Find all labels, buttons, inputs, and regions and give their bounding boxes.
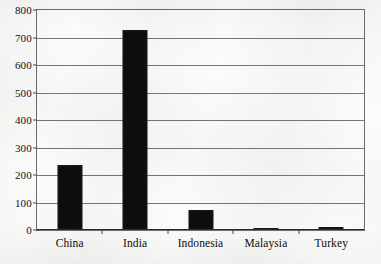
gridline <box>37 203 364 204</box>
x-axis-tick-mark <box>102 230 103 234</box>
y-axis-tick-mark <box>33 175 37 176</box>
x-axis-label-malaysia: Malaysia <box>244 237 287 249</box>
gridline <box>37 93 364 94</box>
y-axis-tick-mark <box>33 37 37 38</box>
bar-china <box>57 165 82 230</box>
y-axis-tick-mark <box>33 202 37 203</box>
y-axis-tick-mark <box>33 120 37 121</box>
y-axis-tick-mark <box>33 65 37 66</box>
x-axis-label-india: India <box>123 237 147 249</box>
bar-indonesia <box>188 210 213 230</box>
gridline <box>37 148 364 149</box>
y-axis-tick-label: 400 <box>15 114 32 126</box>
y-axis-tick-mark <box>33 147 37 148</box>
y-axis-tick-label: 500 <box>15 87 32 99</box>
y-axis-tick-label: 800 <box>15 4 32 16</box>
y-axis-tick-mark <box>33 92 37 93</box>
y-axis-tick-label: 0 <box>26 224 32 236</box>
bar-india <box>123 30 148 230</box>
y-axis-tick-label: 300 <box>15 142 32 154</box>
y-axis-tick-mark <box>33 10 37 11</box>
gridline <box>37 120 364 121</box>
x-axis-tick-mark <box>298 230 299 234</box>
x-axis-label-china: China <box>56 237 84 249</box>
gridline <box>37 38 364 39</box>
x-axis-baseline <box>37 229 364 230</box>
gridline <box>37 65 364 66</box>
x-axis-tick-mark <box>233 230 234 234</box>
plot-area: 8007006005004003002001000 ChinaIndiaIndo… <box>36 9 365 231</box>
chart-page: 8007006005004003002001000 ChinaIndiaIndo… <box>0 0 381 264</box>
x-axis-tick-mark <box>167 230 168 234</box>
x-axis-label-indonesia: Indonesia <box>178 237 224 249</box>
y-axis-tick-label: 700 <box>15 32 32 44</box>
y-axis-tick-label: 200 <box>15 169 32 181</box>
gridline <box>37 175 364 176</box>
y-axis-tick-label: 100 <box>15 197 32 209</box>
x-axis-label-turkey: Turkey <box>315 237 348 249</box>
y-axis-tick-label: 600 <box>15 59 32 71</box>
